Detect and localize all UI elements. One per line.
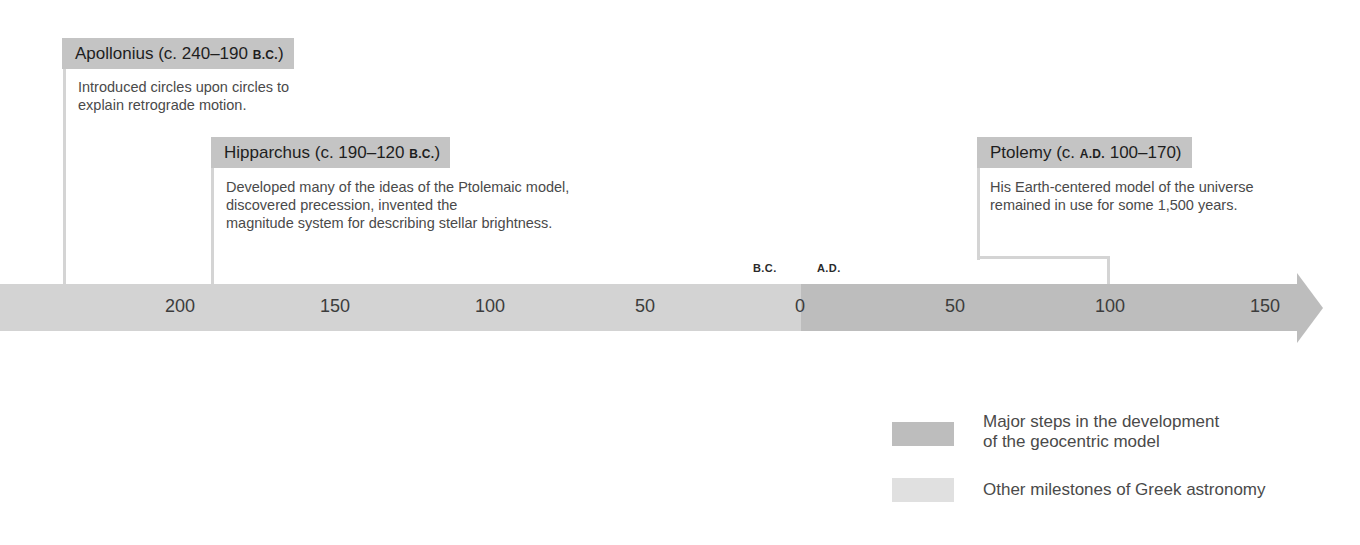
legend-label-major: Major steps in the development of the ge… [983,412,1219,452]
apollonius-header: Apollonius (c. 240–190 B.C.) [62,38,294,69]
event-era: B.C. [409,147,434,161]
hipparchus-connector [211,168,214,284]
event-date-prefix: (c. 240–190 [158,44,253,63]
description-line: explain retrograde motion. [78,96,289,114]
tick-label: 200 [165,296,195,317]
hipparchus-header: Hipparchus (c. 190–120 B.C.) [211,137,450,168]
event-date-suffix: ) [434,143,440,162]
ptolemy-header: Ptolemy (c. A.D. 100–170) [977,137,1192,168]
tick-label: 50 [635,296,655,317]
era-label-ad: A.D. [817,262,841,274]
tick-label: 50 [945,296,965,317]
era-label-bc: B.C. [753,262,777,274]
tick-label: 100 [1095,296,1125,317]
event-date-prefix: (c. 190–120 [315,143,410,162]
hipparchus-description: Developed many of the ideas of the Ptole… [226,178,569,232]
legend-label-other: Other milestones of Greek astronomy [983,480,1266,500]
apollonius-description: Introduced circles upon circles to expla… [78,78,289,114]
event-name: Ptolemy [990,143,1051,162]
event-date-suffix: ) [278,44,284,63]
description-line: Developed many of the ideas of the Ptole… [226,178,569,196]
event-era: B.C. [253,48,278,62]
ptolemy-description: His Earth-centered model of the universe… [990,178,1254,214]
description-line: magnitude system for describing stellar … [226,214,569,232]
event-date-suffix: 100–170) [1105,143,1182,162]
apollonius-connector [63,69,66,284]
tick-label: 150 [1250,296,1280,317]
description-line: remained in use for some 1,500 years. [990,196,1254,214]
ptolemy-connector-vertical [977,168,980,260]
legend-line: Major steps in the development [983,412,1219,432]
legend-line: Other milestones of Greek astronomy [983,480,1266,500]
event-name: Hipparchus [224,143,310,162]
timeline-bar-ad [801,284,1298,331]
ptolemy-connector-horizontal [977,256,1110,259]
tick-label: 150 [320,296,350,317]
event-era: A.D. [1080,147,1105,161]
legend-swatch-other [892,478,954,502]
description-line: discovered precession, invented the [226,196,569,214]
tick-label: 100 [475,296,505,317]
tick-label: 0 [795,296,805,317]
event-date-prefix: (c. [1056,143,1080,162]
legend-line: of the geocentric model [983,432,1219,452]
event-name: Apollonius [75,44,153,63]
ptolemy-connector-drop [1107,256,1110,284]
timeline-bar-bc [0,284,801,331]
timeline-arrow-icon [1297,273,1323,343]
legend-swatch-major [892,422,954,446]
description-line: His Earth-centered model of the universe [990,178,1254,196]
description-line: Introduced circles upon circles to [78,78,289,96]
